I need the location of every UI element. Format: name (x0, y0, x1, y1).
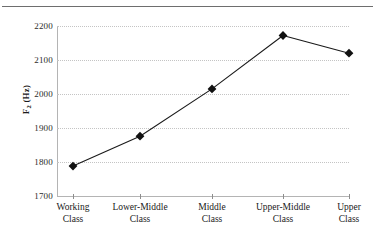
series-line (73, 36, 349, 167)
y-axis-title-subscript: 2 (25, 105, 32, 108)
x-category-label-upper-class: Upper Class (301, 202, 375, 225)
data-point-working-class (69, 162, 78, 171)
data-point-upper-class (345, 49, 354, 58)
plot-area (57, 26, 349, 196)
y-axis-title-base: F (21, 109, 31, 115)
x-axis-spine (57, 196, 350, 197)
x-tick-upper-class (349, 194, 350, 199)
page-header (0, 0, 375, 9)
line-chart-figure: F2 (Hz) 2200 2100 2000 1900 1800 1700 (0, 9, 375, 238)
x-category-line1: Upper (301, 202, 375, 214)
y-tick-label-1900: 1900 (13, 124, 53, 133)
y-tick-label-1800: 1800 (13, 158, 53, 167)
data-series-f2 (57, 26, 349, 196)
running-head-text (0, 0, 375, 1)
y-tick-label-1700: 1700 (13, 192, 53, 201)
y-tick-label-2100: 2100 (13, 56, 53, 65)
y-tick-label-2000: 2000 (13, 90, 53, 99)
data-point-upper-middle-class (279, 31, 288, 40)
header-rule (2, 6, 373, 7)
x-category-line2: Class (301, 214, 375, 226)
y-axis-title: F2 (Hz) (21, 70, 32, 130)
data-point-middle-class (208, 85, 217, 94)
y-tick-label-2200: 2200 (13, 22, 53, 31)
data-point-lower-middle-class (136, 132, 145, 141)
